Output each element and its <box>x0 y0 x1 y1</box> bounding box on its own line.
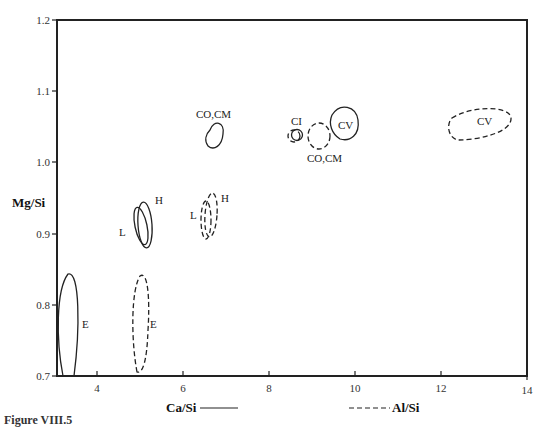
y-tick-label: 1.0 <box>36 156 50 168</box>
label-solid-COCM: CO,CM <box>196 108 231 120</box>
label-solid-E: E <box>82 318 89 330</box>
y-tick-label: 0.7 <box>36 370 50 382</box>
label-dashed-L: L <box>190 209 197 221</box>
region-solid-COCM <box>206 123 223 148</box>
label-solid-CI: CI <box>291 115 302 127</box>
label-dashed-CV: CV <box>477 115 492 127</box>
plot-frame <box>57 20 527 376</box>
label-solid-CV: CV <box>338 119 353 131</box>
y-tick-label: 0.9 <box>36 228 50 240</box>
x-tick-label: 6 <box>180 382 186 394</box>
label-solid-H: H <box>155 194 163 206</box>
x-tick-label: 4 <box>94 382 100 394</box>
label-dashed-E: E <box>150 318 157 330</box>
y-axis-title: Mg/Si <box>12 195 46 210</box>
region-solid-E <box>58 274 78 376</box>
x-tick-label: 12 <box>436 382 447 394</box>
label-dashed-H: H <box>221 192 229 204</box>
figure-caption: Figure VIII.5 <box>4 413 72 428</box>
x-tick-label: 8 <box>266 382 272 394</box>
y-tick-label: 1.2 <box>36 14 50 26</box>
x-axis-title: Ca/Si <box>166 400 197 415</box>
region-dashed-E <box>133 275 149 372</box>
x-tick-label: 10 <box>350 382 362 394</box>
region-dashed-COCM <box>308 123 330 149</box>
label-solid-L: L <box>119 226 126 238</box>
legend-dashed-label: Al/Si <box>392 400 420 415</box>
label-dashed-COCM: CO,CM <box>307 152 342 164</box>
y-tick-label: 1.1 <box>36 85 50 97</box>
x-tick-label: 14 <box>522 384 534 396</box>
region-solid-CI <box>292 130 303 141</box>
y-tick-label: 0.8 <box>36 299 50 311</box>
